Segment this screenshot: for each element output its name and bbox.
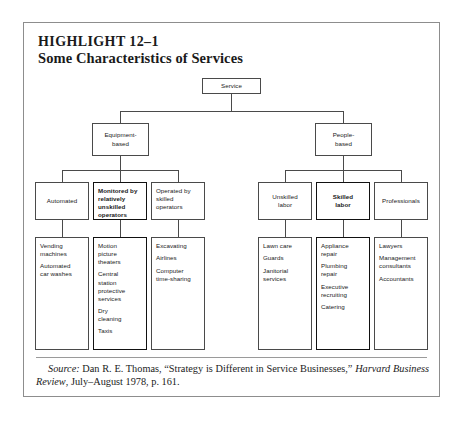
list-item: Lawyers: [379, 242, 424, 250]
source-note: Source: Dan R. E. Thomas, “Strategy is D…: [36, 362, 429, 388]
node-professionals-label: Professionals: [380, 197, 422, 205]
leafbox-automated-examples[interactable]: Vendingmachines Automatedcar washes: [35, 237, 89, 350]
leafbox-professionals-examples[interactable]: Lawyers Managementconsultants Accountant…: [374, 237, 428, 350]
node-automated[interactable]: Automated: [35, 182, 89, 220]
source-text-lead: Dan R. E. Thomas, “Strategy is Different…: [80, 363, 356, 374]
list-item: Centralstationprotectiveservices: [98, 270, 143, 302]
list-item: Lawn care: [263, 242, 308, 250]
leafbox-unskilled-labor-examples[interactable]: Lawn care Guards Janitorialservices: [258, 237, 312, 350]
source-divider: [36, 357, 427, 358]
list-item: Taxis: [98, 327, 143, 335]
node-monitored-unskilled[interactable]: Monitored byrelativelyunskilledoperators: [93, 182, 147, 220]
list-item: Drycleaning: [98, 307, 143, 323]
node-equipment-based-label: Equipment-based: [102, 131, 138, 147]
source-text-tail: , July–August 1978, p. 161.: [66, 376, 180, 387]
list-item: Managementconsultants: [379, 254, 424, 270]
list-item: Guards: [263, 254, 308, 262]
list-item: Janitorialservices: [263, 267, 308, 283]
node-service-label: Service: [219, 82, 244, 90]
node-service[interactable]: Service: [202, 78, 261, 94]
leafbox-operated-skilled-examples[interactable]: Excavating Airlines Computertime-sharing: [151, 237, 205, 350]
node-automated-label: Automated: [45, 197, 79, 205]
list-item: Plumbingrepair: [321, 262, 366, 278]
list-item: Airlines: [156, 254, 201, 262]
node-unskilled-labor-label: Unskilledlabor: [270, 193, 300, 209]
list-item: Catering: [321, 303, 366, 311]
list-item: Excavating: [156, 242, 201, 250]
list-item: Accountants: [379, 275, 424, 283]
node-professionals[interactable]: Professionals: [374, 182, 428, 220]
node-operated-skilled[interactable]: Operated byskilledoperators: [151, 182, 205, 220]
list-item: Automatedcar washes: [40, 262, 85, 278]
source-label: Source:: [48, 363, 80, 374]
highlight-exhibit-panel: HIGHLIGHT 12–1 Some Characteristics of S…: [23, 22, 440, 397]
list-item: Executiverecruiting: [321, 283, 366, 299]
leafbox-skilled-labor-examples[interactable]: Appliancerepair Plumbingrepair Executive…: [316, 237, 370, 350]
list-item: Computertime-sharing: [156, 267, 201, 283]
node-skilled-labor-label: Skilledlabor: [331, 193, 355, 209]
node-equipment-based[interactable]: Equipment-based: [92, 123, 149, 156]
leafbox-monitored-unskilled-examples[interactable]: Motionpicturetheaters Centralstationprot…: [93, 237, 147, 350]
list-item: Motionpicturetheaters: [98, 242, 143, 266]
list-item: Vendingmachines: [40, 242, 85, 258]
node-people-based-label: People-based: [331, 131, 357, 147]
node-monitored-unskilled-label: Monitored byrelativelyunskilledoperators: [98, 187, 143, 220]
node-unskilled-labor[interactable]: Unskilledlabor: [258, 182, 312, 220]
list-item: Appliancerepair: [321, 242, 366, 258]
node-people-based[interactable]: People-based: [315, 123, 372, 156]
services-hierarchy-diagram: Service Equipment-based People-based Aut…: [24, 23, 439, 396]
node-skilled-labor[interactable]: Skilledlabor: [316, 182, 370, 220]
node-operated-skilled-label: Operated byskilledoperators: [156, 187, 201, 212]
